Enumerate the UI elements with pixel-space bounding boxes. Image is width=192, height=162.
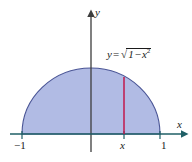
- radical-sign: √: [120, 49, 127, 60]
- x-tick-label-1: 1: [161, 140, 167, 151]
- plot-canvas: [0, 0, 192, 162]
- x-tick-label-neg1: −1: [14, 140, 26, 151]
- radicand-lead: 1: [128, 48, 134, 60]
- figure-semicircle-area: y=√1−x2 y x −1 x 1: [0, 0, 192, 162]
- radicand-exponent: 2: [147, 47, 151, 55]
- radicand-group: 1−x2: [126, 48, 151, 60]
- function-equation-label: y=√1−x2: [107, 48, 151, 60]
- equation-equals: =: [112, 48, 120, 60]
- y-axis-label: y: [95, 7, 100, 18]
- radicand-minus: −: [134, 48, 142, 60]
- x-axis-label: x: [177, 119, 182, 130]
- x-tick-label-x: x: [120, 140, 125, 151]
